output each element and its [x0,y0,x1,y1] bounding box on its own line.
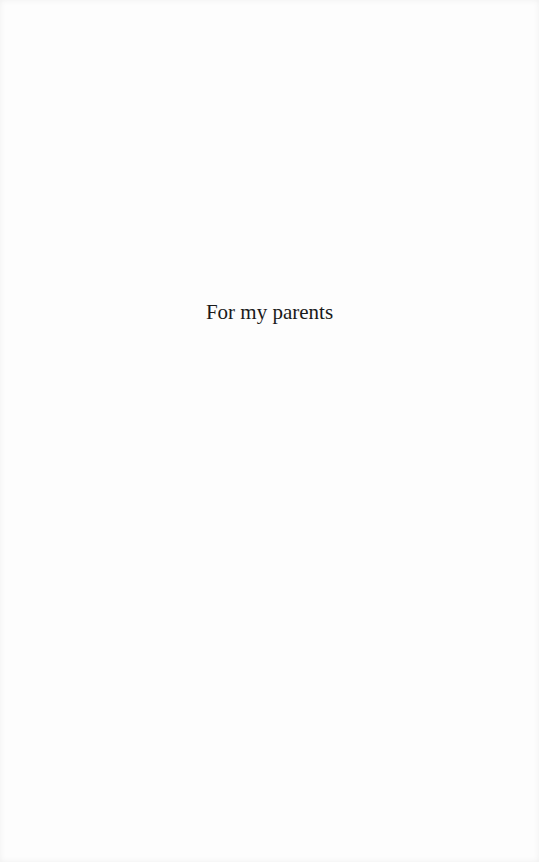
dedication-text: For my parents [0,300,539,325]
